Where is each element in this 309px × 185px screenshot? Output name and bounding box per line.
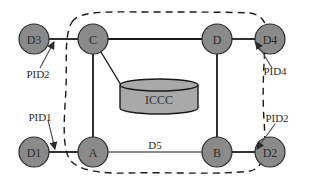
node-c-label: C [89,33,97,47]
node-d3-label: D3 [27,33,42,47]
node-a: A [78,137,108,167]
node-d: D [202,24,232,54]
edge-label-d5: D5 [148,139,162,151]
node-a-label: A [89,146,98,160]
network-diagram: ICCC D3 C D D4 D1 A B [0,0,309,185]
iccc-database-icon: ICCC [120,79,198,114]
edge-c-iccc [101,52,121,85]
node-b: B [202,137,232,167]
node-c: C [78,24,108,54]
node-d1-label: D1 [27,146,42,160]
pid-arrow-icon [48,120,55,149]
node-d4-label: D4 [263,33,278,47]
pid1-label: PID1 [28,111,51,123]
node-d-label: D [213,33,222,47]
node-b-label: B [213,146,221,160]
node-d4: D4 [255,24,285,54]
iccc-label: ICCC [145,93,173,107]
pid2-top-label: PID2 [26,68,49,80]
pid2-bottom-label: PID2 [265,112,288,124]
pid4-label: PID4 [263,65,287,77]
node-d3: D3 [19,24,49,54]
node-d2-label: D2 [263,146,278,160]
node-d1: D1 [19,137,49,167]
node-d2: D2 [255,137,285,167]
